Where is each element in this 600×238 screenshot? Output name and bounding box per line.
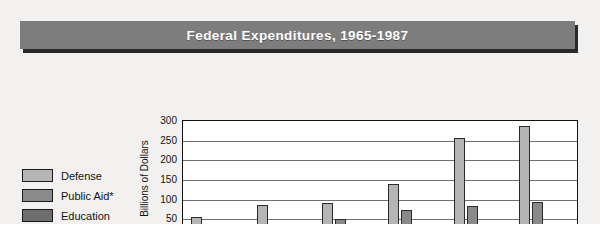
chart-card: DefensePublic Aid*EducationSpace *Not in… <box>0 56 600 224</box>
legend-item: Defense <box>22 166 142 185</box>
bar-group <box>249 121 315 237</box>
y-tick-label: 150 <box>160 174 177 185</box>
bar-group <box>511 121 577 237</box>
y-axis-label-text: Billions of Dollars <box>139 140 150 217</box>
y-axis-ticks: 050100150200250300 <box>152 114 180 237</box>
legend-item: Public Aid* <box>22 186 142 205</box>
y-tick-label: 100 <box>160 193 177 204</box>
bar-group <box>380 121 446 237</box>
scan-artifact-text <box>250 0 580 11</box>
y-tick-label: 250 <box>160 134 177 145</box>
chart-area: Billions of Dollars 050100150200250300 1… <box>136 114 588 237</box>
legend-item: Education <box>22 206 142 225</box>
bar-group <box>183 121 249 237</box>
bar-group <box>314 121 380 237</box>
legend-swatch <box>22 209 53 222</box>
legend-swatch <box>22 169 53 182</box>
bar <box>519 126 530 237</box>
page-bottom-edge <box>0 224 600 237</box>
bar <box>454 138 465 238</box>
y-tick-label: 50 <box>166 213 177 224</box>
legend-item-label: Public Aid* <box>61 190 114 202</box>
bar-group <box>446 121 512 237</box>
chart-title-text: Federal Expenditures, 1965-1987 <box>187 28 409 43</box>
legend-item-label: Defense <box>61 170 102 182</box>
y-axis-label: Billions of Dollars <box>136 118 152 237</box>
y-tick-label: 300 <box>160 115 177 126</box>
chart-page: Federal Expenditures, 1965-1987 DefenseP… <box>0 0 600 237</box>
plot-area <box>182 120 578 237</box>
y-tick-label: 200 <box>160 154 177 165</box>
legend-swatch <box>22 189 53 202</box>
bar-groups <box>183 121 577 237</box>
legend-item-label: Education <box>61 210 110 222</box>
chart-title-banner: Federal Expenditures, 1965-1987 <box>20 21 575 49</box>
